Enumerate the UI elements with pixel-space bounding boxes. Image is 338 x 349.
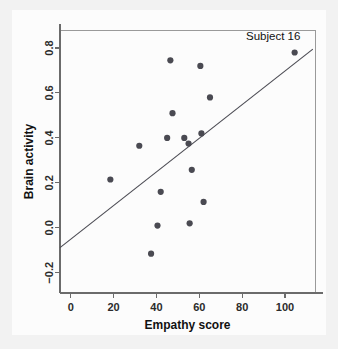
data-point [185,140,191,146]
data-point [154,222,160,228]
y-tick-label: 0.2 [43,175,55,190]
x-tick-label: 80 [236,301,248,313]
data-point [107,176,113,182]
y-axis-title: Brain activity [22,123,36,199]
y-tick-label: 0.4 [43,129,55,145]
data-point [207,94,213,100]
y-tick-label: −0.2 [43,262,55,284]
point-annotation-label: Subject 16 [246,30,300,42]
data-point [198,130,204,136]
x-tick-label: 100 [276,301,294,313]
data-point [292,49,298,55]
x-axis-title: Empathy score [144,318,230,332]
plot-panel: 020406080100−0.20.00.20.40.60.8Empathy s… [12,10,326,335]
data-point [169,110,175,116]
data-point [189,167,195,173]
data-point [158,189,164,195]
x-tick-label: 60 [193,301,205,313]
x-tick-label: 40 [150,301,162,313]
plot-frame [60,30,315,293]
data-point [148,251,154,257]
data-point [167,57,173,63]
data-point [181,135,187,141]
data-point [197,63,203,69]
y-tick-label: 0.8 [43,40,55,55]
data-point [187,220,193,226]
y-tick-label: 0.6 [43,85,55,100]
scatter-chart: 020406080100−0.20.00.20.40.60.8Empathy s… [12,10,326,335]
x-tick-label: 20 [107,301,119,313]
data-point [200,199,206,205]
x-tick-label: 0 [68,301,74,313]
data-point [164,135,170,141]
figure-root: 020406080100−0.20.00.20.40.60.8Empathy s… [0,0,338,349]
regression-line [60,49,313,247]
y-tick-label: 0.0 [43,220,55,235]
data-point [136,143,142,149]
